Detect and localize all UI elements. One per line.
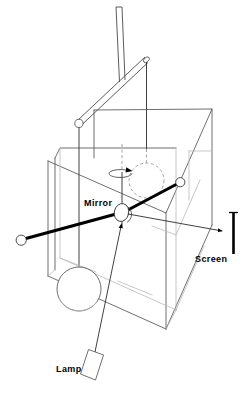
screen-label: Screen [195,254,227,264]
screen-bar [229,212,238,254]
mirror-disc [113,202,132,223]
figure-root: Mirror Screen Lamp [0,0,251,394]
ghost-sphere [129,149,164,198]
apparatus-diagram: Mirror Screen Lamp [0,0,251,394]
rotation-arrow [109,167,133,177]
support-rod [116,7,125,82]
mirror-label: Mirror [84,198,112,208]
large-sphere [57,267,101,311]
suspension-arm [75,56,151,128]
lamp-label: Lamp [56,364,82,374]
reflected-ray [128,214,222,231]
lamp-body [81,350,104,381]
dumbbell-bar [16,178,185,246]
hanger-lines [79,62,147,268]
